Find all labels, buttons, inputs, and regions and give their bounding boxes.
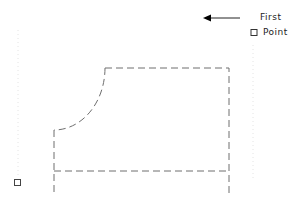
arrow-left-icon bbox=[203, 15, 240, 22]
first-point-marker-icon[interactable] bbox=[251, 30, 257, 36]
dashed-outline bbox=[54, 68, 229, 195]
point-marker-icon[interactable] bbox=[15, 180, 21, 186]
drawing-canvas bbox=[0, 0, 302, 204]
outline-top-and-right bbox=[105, 68, 229, 194]
point-label: Point bbox=[263, 28, 288, 37]
outline-arc bbox=[54, 68, 105, 130]
first-label: First bbox=[260, 13, 281, 22]
